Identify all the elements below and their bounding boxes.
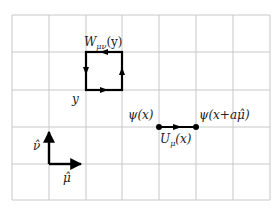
nu-hat-label: ν̂ [33, 139, 40, 153]
link-variable [156, 124, 199, 130]
arrow-down-icon [83, 67, 89, 75]
site-node-x [156, 124, 162, 130]
plaquette-loop [86, 52, 122, 90]
psi-x-label: ψ(x) [128, 108, 154, 122]
basis-vectors [49, 132, 81, 164]
arrow-up-icon [119, 67, 125, 75]
mu-hat-label: μ̂ [63, 171, 71, 185]
lattice-diagram: Wμν(y) y ψ(x) ψ(x+aμ̂) Uμ(x) ν̂ μ̂ [0, 0, 280, 212]
link-label: Uμ(x) [160, 132, 192, 148]
plaquette-label: Wμν(y) [84, 35, 123, 51]
arrow-right-icon [173, 124, 182, 130]
plaquette-arrow-icons [83, 49, 125, 93]
site-node-x-plus-mu [193, 124, 199, 130]
psi-x-plus-mu-label: ψ(x+aμ̂) [199, 108, 250, 122]
corner-label-y: y [71, 92, 79, 106]
arrow-right-icon [100, 87, 108, 93]
